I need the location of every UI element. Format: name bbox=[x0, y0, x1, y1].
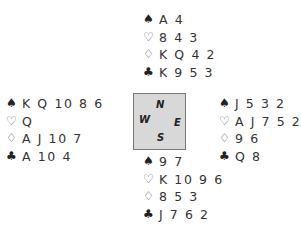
west-diamonds-row: ♢ A J 10 7 bbox=[6, 130, 104, 148]
south-hearts-row: ♡ K 10 9 6 bbox=[143, 171, 224, 189]
club-icon: ♣ bbox=[6, 148, 22, 166]
heart-icon: ♡ bbox=[219, 113, 235, 131]
diamond-icon: ♢ bbox=[6, 130, 22, 148]
diamond-icon: ♢ bbox=[143, 188, 159, 206]
north-hearts: 8 4 3 bbox=[159, 29, 199, 47]
south-hand: ♠ 9 7 ♡ K 10 9 6 ♢ 8 5 3 ♣ J 7 6 2 bbox=[143, 153, 224, 223]
north-clubs-row: ♣ K 9 5 3 bbox=[143, 64, 216, 82]
south-clubs: J 7 6 2 bbox=[159, 206, 210, 224]
diamond-icon: ♢ bbox=[143, 46, 159, 64]
east-diamonds: 9 6 bbox=[235, 130, 260, 148]
west-spades-row: ♠ K Q 10 8 6 bbox=[6, 95, 104, 113]
club-icon: ♣ bbox=[143, 64, 159, 82]
heart-icon: ♡ bbox=[143, 29, 159, 47]
heart-icon: ♡ bbox=[6, 113, 22, 131]
north-diamonds: K Q 4 2 bbox=[159, 46, 216, 64]
east-spades-row: ♠ J 5 3 2 bbox=[219, 95, 301, 113]
north-spades-row: ♠ A 4 bbox=[143, 11, 216, 29]
east-hearts-row: ♡ A J 7 5 2 bbox=[219, 113, 301, 131]
south-diamonds-row: ♢ 8 5 3 bbox=[143, 188, 224, 206]
diamond-icon: ♢ bbox=[219, 130, 235, 148]
east-hearts: A J 7 5 2 bbox=[235, 113, 301, 131]
east-diamonds-row: ♢ 9 6 bbox=[219, 130, 301, 148]
compass-east-label: E bbox=[174, 117, 181, 128]
south-clubs-row: ♣ J 7 6 2 bbox=[143, 206, 224, 224]
west-clubs-row: ♣ A 10 4 bbox=[6, 148, 104, 166]
west-hand: ♠ K Q 10 8 6 ♡ Q ♢ A J 10 7 ♣ A 10 4 bbox=[6, 95, 104, 165]
south-hearts: K 10 9 6 bbox=[159, 171, 224, 189]
east-clubs: Q 8 bbox=[235, 148, 262, 166]
heart-icon: ♡ bbox=[143, 171, 159, 189]
west-clubs: A 10 4 bbox=[22, 148, 72, 166]
compass-north-label: N bbox=[156, 99, 164, 110]
east-hand: ♠ J 5 3 2 ♡ A J 7 5 2 ♢ 9 6 ♣ Q 8 bbox=[219, 95, 301, 165]
north-hand: ♠ A 4 ♡ 8 4 3 ♢ K Q 4 2 ♣ K 9 5 3 bbox=[143, 11, 216, 81]
west-spades: K Q 10 8 6 bbox=[22, 95, 104, 113]
spade-icon: ♠ bbox=[143, 11, 159, 29]
south-diamonds: 8 5 3 bbox=[159, 188, 199, 206]
east-clubs-row: ♣ Q 8 bbox=[219, 148, 301, 166]
north-clubs: K 9 5 3 bbox=[159, 64, 214, 82]
compass-west-label: W bbox=[139, 114, 150, 125]
compass-south-label: S bbox=[157, 132, 164, 143]
spade-icon: ♠ bbox=[6, 95, 22, 113]
club-icon: ♣ bbox=[143, 206, 159, 224]
spade-icon: ♠ bbox=[219, 95, 235, 113]
south-spades-row: ♠ 9 7 bbox=[143, 153, 224, 171]
compass-box: N W E S bbox=[133, 93, 186, 150]
spade-icon: ♠ bbox=[143, 153, 159, 171]
north-spades: A 4 bbox=[159, 11, 184, 29]
north-hearts-row: ♡ 8 4 3 bbox=[143, 29, 216, 47]
west-diamonds: A J 10 7 bbox=[22, 130, 83, 148]
east-spades: J 5 3 2 bbox=[235, 95, 286, 113]
south-spades: 9 7 bbox=[159, 153, 184, 171]
north-diamonds-row: ♢ K Q 4 2 bbox=[143, 46, 216, 64]
west-hearts: Q bbox=[22, 113, 33, 131]
west-hearts-row: ♡ Q bbox=[6, 113, 104, 131]
